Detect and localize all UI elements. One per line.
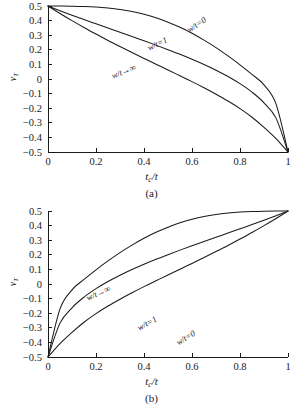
y-tick-label: −0.4 (23, 132, 43, 143)
y-tick-label: −0.1 (23, 293, 42, 304)
chart-panel-a: 0.50.40.30.20.10−0.1−0.2−0.3−0.4−0.500.2… (0, 0, 303, 205)
panel-caption-b: (b) (0, 392, 303, 404)
figure-container: 0.50.40.30.20.10−0.1−0.2−0.3−0.4−0.500.2… (0, 0, 303, 410)
y-axis-label-b: νT (8, 271, 18, 293)
y-tick-label: 0.5 (29, 206, 42, 217)
x-tick-label: 0.6 (185, 156, 198, 167)
y-tick-label: 0.3 (29, 30, 42, 41)
x-axis-label-b: tc/t (0, 375, 303, 387)
y-tick-label: 0.3 (29, 235, 42, 246)
y-tick-label: 0.4 (29, 220, 43, 231)
y-tick-label: −0.3 (23, 322, 42, 333)
y-axis-label-a: νT (8, 66, 18, 88)
y-tick-label: −0.1 (23, 88, 42, 99)
x-tick-label: 0 (45, 361, 50, 372)
y-tick-label: 0.4 (29, 15, 43, 26)
y-tick-label: 0.1 (29, 264, 42, 275)
x-tick-label: 0.8 (233, 156, 246, 167)
y-tick-label: −0.4 (23, 337, 43, 348)
curve-w-t (48, 6, 288, 152)
chart-panel-b: 0.50.40.30.20.10−0.1−0.2−0.3−0.4−0.500.2… (0, 205, 303, 410)
x-tick-label: 0.8 (233, 361, 246, 372)
y-tick-label: 0.5 (29, 1, 42, 12)
y-tick-label: 0 (37, 74, 42, 85)
y-tick-label: −0.2 (23, 308, 42, 319)
x-tick-label: 0.4 (137, 156, 151, 167)
y-tick-label: −0.3 (23, 117, 42, 128)
x-axis-label-a: tc/t (0, 170, 303, 182)
y-tick-label: −0.5 (23, 147, 42, 158)
x-tick-label: 1 (285, 156, 290, 167)
y-tick-label: 0.1 (29, 59, 42, 70)
x-tick-label: 0.6 (185, 361, 198, 372)
curve-w-t (48, 211, 288, 357)
x-tick-label: 0.2 (89, 156, 102, 167)
x-tick-label: 0 (45, 156, 50, 167)
panel-caption-a: (a) (0, 187, 303, 199)
y-tick-label: 0.2 (29, 249, 42, 260)
x-tick-label: 0.4 (137, 361, 151, 372)
y-tick-label: −0.5 (23, 352, 42, 363)
y-tick-label: −0.2 (23, 103, 42, 114)
x-tick-label: 1 (285, 361, 290, 372)
y-tick-label: 0 (37, 279, 42, 290)
y-tick-label: 0.2 (29, 44, 42, 55)
x-tick-label: 0.2 (89, 361, 102, 372)
